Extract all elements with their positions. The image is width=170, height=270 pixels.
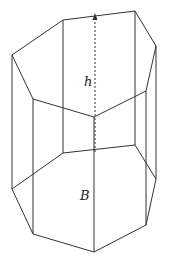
bottom-face-back-edges [12,145,156,189]
base-label: B [79,188,90,203]
top-face [12,11,156,117]
height-label: h [84,74,92,89]
prism-diagram: h B [0,0,170,270]
